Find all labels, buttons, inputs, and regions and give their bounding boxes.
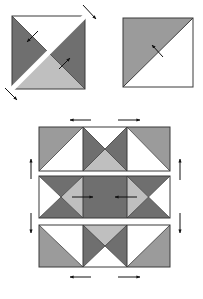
hourglass-cut-unit [5, 5, 96, 100]
half-square-triangle-unit [123, 18, 193, 87]
quilt-diagram [0, 0, 203, 299]
block-row-3 [39, 225, 170, 267]
block-row-1 [39, 127, 170, 171]
block-row-2 [39, 176, 170, 218]
